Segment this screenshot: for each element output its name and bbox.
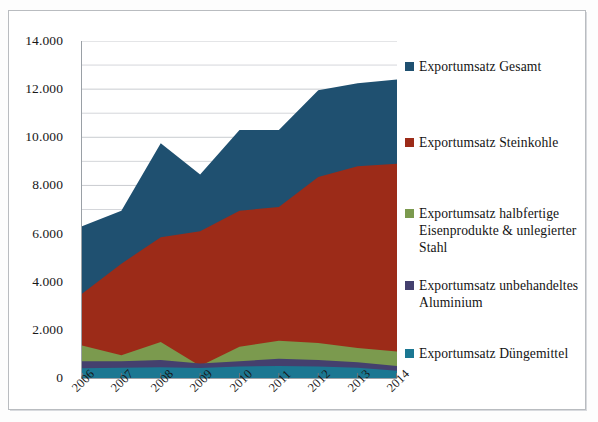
legend-item[interactable]: Exportumsatz Steinkohle	[405, 134, 590, 151]
area-chart-svg	[82, 41, 397, 378]
legend-item[interactable]: Exportumsatz unbehandeltes Aluminium	[405, 277, 590, 311]
chart-screenshot: 14.00012.00010.0008.0006.0004.0002.0000 …	[0, 0, 598, 422]
y-axis-tick-label: 10.000	[25, 129, 63, 145]
legend-item[interactable]: Exportumsatz Düngemittel	[405, 345, 590, 362]
chart-frame: 14.00012.00010.0008.0006.0004.0002.0000 …	[8, 10, 586, 410]
y-axis-tick-label: 4.000	[32, 274, 63, 290]
legend-item-label: Exportumsatz Steinkohle	[419, 134, 558, 151]
y-axis-tick-label: 2.000	[32, 322, 63, 338]
y-axis-labels: 14.00012.00010.0008.0006.0004.0002.0000	[9, 31, 67, 378]
y-axis-tick-label: 0	[56, 370, 63, 386]
plot-wrapper	[71, 31, 396, 378]
y-axis-tick-label: 6.000	[32, 226, 63, 242]
legend-swatch-icon	[405, 209, 414, 218]
legend-item[interactable]: Exportumsatz halbfertige Eisenprodukte &…	[405, 205, 590, 256]
legend-item-label: Exportumsatz Düngemittel	[419, 345, 568, 362]
legend-swatch-icon	[405, 349, 414, 358]
legend-item[interactable]: Exportumsatz Gesamt	[405, 58, 590, 75]
x-axis-labels: 200620072008200920102011201220132014	[71, 379, 406, 422]
y-axis-tick-label: 12.000	[25, 81, 63, 97]
legend-item-label: Exportumsatz halbfertige Eisenprodukte &…	[419, 205, 590, 256]
legend-item-label: Exportumsatz Gesamt	[419, 58, 541, 75]
legend-swatch-icon	[405, 138, 414, 147]
legend-item-label: Exportumsatz unbehandeltes Aluminium	[419, 277, 590, 311]
y-axis-tick-label: 8.000	[32, 177, 63, 193]
plot-area	[81, 41, 397, 379]
y-axis-tick-label: 14.000	[25, 33, 63, 49]
legend-swatch-icon	[405, 281, 414, 290]
legend-swatch-icon	[405, 62, 414, 71]
